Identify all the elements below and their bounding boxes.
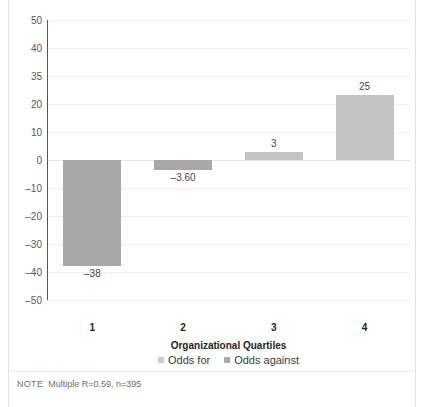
chart-title [90,0,380,4]
y-axis-tick-label: 35 [2,71,42,82]
figure-border-right [415,0,416,407]
note-separator [9,371,415,372]
legend-item-odds-against: Odds against [224,354,299,366]
x-axis-tick-labels: 1234 [47,322,410,336]
y-axis-tick-label: –20 [2,211,42,222]
x-axis-tick-label: 4 [336,322,394,333]
plot-area: –38–3.60325 [47,20,410,300]
x-axis-tick-label: 2 [154,322,212,333]
bar-value-label: –38 [54,268,130,279]
chart-figure: 50403520100–10–20–30–40–50 –38–3.60325 1… [0,0,428,407]
x-axis-tick-label: 1 [63,322,121,333]
y-axis-tick-label: –30 [2,239,42,250]
y-axis-tick-label: 40 [2,43,42,54]
note-text: Multiple R=0.59, n=395 [48,379,141,389]
chart-legend: Odds for Odds against [47,354,410,366]
bar [63,160,121,266]
legend-item-odds-for: Odds for [158,354,210,366]
bar-value-label: 3 [236,138,312,149]
y-axis-tick-labels: 50403520100–10–20–30–40–50 [0,20,42,300]
bar [245,152,303,160]
y-axis-tick-label: 20 [2,99,42,110]
legend-label: Odds against [234,354,299,366]
legend-swatch-icon [158,357,164,363]
note-tag: NOTE [17,379,43,389]
x-axis-title: Organizational Quartiles [47,340,410,351]
y-axis-tick-label: –40 [2,267,42,278]
bar [154,160,212,170]
bar-value-label: –3.60 [145,172,221,183]
legend-swatch-icon [224,357,230,363]
x-axis-tick-label: 3 [245,322,303,333]
note-footer: NOTEMultiple R=0.59, n=395 [17,379,141,389]
legend-label: Odds for [168,354,210,366]
gridline [47,300,410,301]
y-axis-tick-label: 10 [2,127,42,138]
y-axis-tick-label: –10 [2,183,42,194]
y-axis-tick-label: –50 [2,295,42,306]
y-axis-tick-label: 50 [2,15,42,26]
bar-value-label: 25 [327,81,403,92]
y-axis-tick-label: 0 [2,155,42,166]
bar [336,95,394,160]
